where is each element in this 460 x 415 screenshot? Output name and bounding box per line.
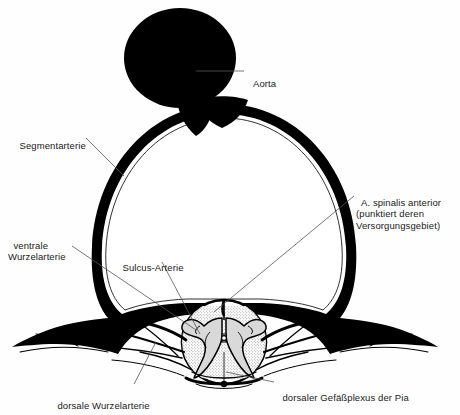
label-dorsaler-gefaessplexus-text: dorsaler Gefäßplexus der Pia <box>282 392 408 403</box>
label-a-spinalis-anterior: A. spinalis anterior (punktiert deren Ve… <box>356 185 441 231</box>
central-canal <box>222 336 227 341</box>
label-ventrale-wurzelarterie-text: ventrale Wurzelarterie <box>8 240 66 263</box>
label-sulcus-arterie-text: Sulcus-Arterie <box>122 262 183 273</box>
label-dorsale-wurzelarterie-text: dorsale Wurzelarterie <box>57 400 149 411</box>
label-sulcus-arterie: Sulcus-Arterie <box>117 250 184 273</box>
label-ventrale-wurzelarterie: ventrale Wurzelarterie <box>8 228 66 263</box>
label-segmentarterie-text: Segmentarterie <box>19 140 85 151</box>
label-aorta: Aorta <box>248 66 276 89</box>
label-segmentarterie: Segmentarterie <box>14 128 86 151</box>
label-aorta-text: Aorta <box>253 78 276 89</box>
label-dorsale-wurzelarterie: dorsale Wurzelarterie <box>52 388 150 411</box>
label-a-spinalis-anterior-text: A. spinalis anterior (punktiert deren Ve… <box>356 197 441 231</box>
label-dorsaler-gefaessplexus: dorsaler Gefäßplexus der Pia <box>277 380 409 403</box>
